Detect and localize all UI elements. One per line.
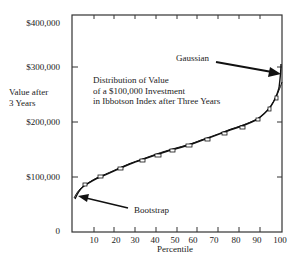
x-tick-label: 70 [210, 235, 219, 245]
y-tick-label: $300,000 [0, 62, 60, 72]
y-tick-label: $200,000 [0, 117, 60, 127]
gaussian-arrow [216, 62, 281, 77]
x-tick-label: 30 [131, 235, 140, 245]
x-tick-label: 100 [273, 235, 287, 245]
x-tick-label: 20 [112, 235, 121, 245]
x-tick-label: 80 [232, 235, 241, 245]
x-tick-label: 10 [90, 235, 99, 245]
y-tick-label: 0 [0, 226, 60, 236]
x-tick-label: 90 [253, 235, 262, 245]
bootstrap-markers [83, 96, 278, 186]
plot-frame [72, 15, 282, 232]
bootstrap-arrow [78, 194, 128, 208]
y-tick-label: $100,000 [0, 172, 60, 182]
gaussian-annotation: Gaussian [176, 53, 209, 64]
chart-title: Distribution of Value of a $100,000 Inve… [93, 75, 220, 107]
bootstrap-annotation: Bootstrap [134, 205, 169, 216]
y-tick-label: $400,000 [0, 18, 60, 28]
x-axis-ticks [94, 15, 260, 232]
x-axis-label: Percentile [157, 244, 193, 255]
chart-canvas [0, 0, 295, 262]
y-axis-label: Value after 3 Years [9, 87, 48, 108]
